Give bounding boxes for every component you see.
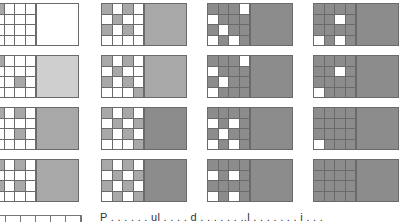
cell-grid bbox=[207, 107, 250, 150]
figure-panel bbox=[0, 107, 79, 150]
grid-cell bbox=[26, 36, 37, 47]
grid-cell bbox=[113, 88, 124, 99]
grid-cell bbox=[26, 181, 37, 192]
grid-cell bbox=[123, 67, 134, 78]
cell-grid bbox=[101, 159, 144, 202]
grid-cell bbox=[325, 88, 336, 99]
grid-cell bbox=[208, 56, 219, 67]
grid-cell bbox=[134, 36, 145, 47]
grid-cell bbox=[123, 36, 134, 47]
grid-cell bbox=[15, 192, 26, 203]
grid-cell bbox=[325, 171, 336, 182]
shaded-block bbox=[144, 159, 187, 202]
grid-cell bbox=[240, 36, 251, 47]
figure-panel bbox=[101, 55, 187, 98]
grid-cell bbox=[26, 67, 37, 78]
shaded-block bbox=[144, 55, 187, 98]
grid-cell bbox=[229, 77, 240, 88]
grid-cell bbox=[240, 171, 251, 182]
grid-cell bbox=[229, 192, 240, 203]
grid-cell bbox=[229, 15, 240, 26]
cell-grid bbox=[207, 159, 250, 202]
figure-panel bbox=[207, 55, 293, 98]
grid-cell bbox=[15, 88, 26, 99]
grid-cell bbox=[123, 181, 134, 192]
grid-cell bbox=[314, 25, 325, 36]
grid-cell bbox=[208, 25, 219, 36]
grid-cell bbox=[102, 181, 113, 192]
grid-cell bbox=[113, 108, 124, 119]
cell-grid bbox=[313, 55, 356, 98]
grid-cell bbox=[208, 192, 219, 203]
grid-cell bbox=[123, 4, 134, 15]
grid-cell bbox=[15, 4, 26, 15]
grid-cell bbox=[229, 25, 240, 36]
grid-cell bbox=[335, 4, 346, 15]
grid-cell bbox=[208, 15, 219, 26]
grid-cell bbox=[229, 129, 240, 140]
grid-cell bbox=[314, 67, 325, 78]
cell-grid bbox=[313, 159, 356, 202]
partial-grid-stub bbox=[0, 215, 82, 222]
grid-cell bbox=[26, 15, 37, 26]
cell-grid bbox=[0, 159, 36, 202]
grid-cell bbox=[325, 140, 336, 151]
grid-cell bbox=[134, 4, 145, 15]
figure-panel bbox=[313, 159, 399, 202]
grid-cell bbox=[113, 15, 124, 26]
grid-cell bbox=[229, 4, 240, 15]
grid-cell bbox=[240, 119, 251, 130]
grid-cell bbox=[102, 171, 113, 182]
shaded-block bbox=[250, 3, 293, 46]
grid-cell bbox=[335, 108, 346, 119]
grid-cell bbox=[314, 140, 325, 151]
shaded-block bbox=[36, 107, 79, 150]
grid-cell bbox=[26, 140, 37, 151]
grid-cell bbox=[5, 56, 16, 67]
grid-cell bbox=[5, 67, 16, 78]
figure-panel bbox=[207, 107, 293, 150]
grid-cell bbox=[229, 119, 240, 130]
grid-cell bbox=[240, 160, 251, 171]
grid-cell bbox=[346, 192, 357, 203]
grid-cell bbox=[314, 36, 325, 47]
grid-cell bbox=[26, 119, 37, 130]
cell-grid bbox=[313, 107, 356, 150]
grid-cell bbox=[134, 129, 145, 140]
grid-cell bbox=[5, 140, 16, 151]
grid-cell bbox=[102, 129, 113, 140]
figure-panel bbox=[313, 55, 399, 98]
grid-cell bbox=[346, 160, 357, 171]
grid-cell bbox=[134, 77, 145, 88]
shaded-block bbox=[356, 159, 399, 202]
grid-cell bbox=[314, 4, 325, 15]
grid-cell bbox=[346, 25, 357, 36]
grid-cell bbox=[5, 108, 16, 119]
grid-cell bbox=[15, 36, 26, 47]
grid-cell bbox=[113, 140, 124, 151]
grid-cell bbox=[208, 67, 219, 78]
grid-cell bbox=[208, 181, 219, 192]
grid-cell bbox=[335, 36, 346, 47]
figure-panel bbox=[207, 3, 293, 46]
grid-cell bbox=[123, 77, 134, 88]
grid-cell bbox=[240, 56, 251, 67]
figure-panel bbox=[0, 3, 79, 46]
grid-cell bbox=[123, 25, 134, 36]
grid-cell bbox=[325, 67, 336, 78]
grid-cell bbox=[102, 88, 113, 99]
grid-cell bbox=[219, 160, 230, 171]
grid-cell bbox=[219, 88, 230, 99]
grid-cell bbox=[102, 4, 113, 15]
grid-cell bbox=[26, 108, 37, 119]
figure-panel bbox=[101, 3, 187, 46]
grid-cell bbox=[219, 4, 230, 15]
grid-cell bbox=[325, 15, 336, 26]
grid-cell bbox=[325, 36, 336, 47]
grid-cell bbox=[229, 56, 240, 67]
grid-cell bbox=[5, 36, 16, 47]
grid-cell bbox=[325, 119, 336, 130]
grid-cell bbox=[134, 88, 145, 99]
grid-cell bbox=[123, 140, 134, 151]
grid-cell bbox=[15, 181, 26, 192]
